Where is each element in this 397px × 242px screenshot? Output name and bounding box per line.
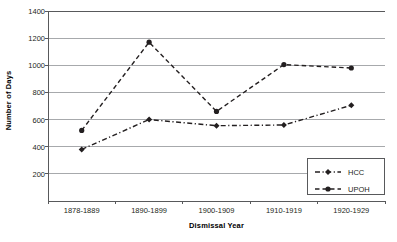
- x-axis-title: Dismissal Year: [48, 221, 385, 230]
- legend-swatch-upoh: [314, 183, 342, 195]
- chart-container: Number of Days 200400600800100012001400 …: [0, 0, 397, 242]
- data-point-marker: [79, 128, 84, 133]
- data-point-marker: [349, 65, 354, 70]
- data-point-marker: [325, 186, 330, 191]
- x-tick-label: 1920-1929: [333, 206, 369, 215]
- data-point-marker: [214, 123, 220, 129]
- data-point-marker: [146, 117, 152, 123]
- data-point-marker: [281, 62, 286, 67]
- chart-legend: HCCUPOH: [307, 158, 385, 195]
- x-tick-label: 1910-1919: [266, 206, 302, 215]
- x-tick-label: 1890-1899: [131, 206, 167, 215]
- data-point-marker: [325, 169, 331, 175]
- legend-swatch-hcc: [314, 166, 342, 178]
- x-tick-label: 1878-1889: [64, 206, 100, 215]
- legend-label: HCC: [348, 168, 364, 177]
- legend-label: UPOH: [348, 185, 370, 194]
- legend-item-upoh: UPOH: [314, 183, 370, 195]
- data-point-marker: [281, 122, 287, 128]
- data-point-marker: [79, 146, 85, 152]
- legend-item-hcc: HCC: [314, 166, 364, 178]
- data-point-marker: [147, 40, 152, 45]
- x-tick-label: 1900-1909: [199, 206, 235, 215]
- data-point-marker: [348, 102, 354, 108]
- data-point-marker: [214, 109, 219, 114]
